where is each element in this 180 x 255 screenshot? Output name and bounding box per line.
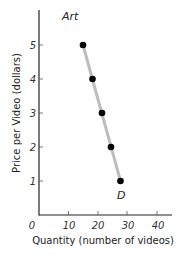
y-axis-title: Price per Video (dollars): [11, 53, 22, 173]
data-point: [117, 178, 124, 185]
x-axis-title: Quantity (number of videos): [32, 235, 174, 246]
svg-text:1: 1: [30, 176, 36, 187]
chart: 1 2 3 4 5 0 10 20 30 40 Quantity (number…: [0, 0, 180, 255]
svg-text:3: 3: [30, 108, 36, 119]
data-point: [108, 144, 115, 151]
demand-label: D: [117, 189, 125, 202]
svg-text:20: 20: [92, 220, 105, 231]
svg-text:40: 40: [152, 220, 165, 231]
svg-text:0: 0: [29, 220, 35, 231]
data-point: [89, 76, 96, 83]
svg-text:30: 30: [122, 220, 135, 231]
chart-title-art: Art: [61, 10, 79, 23]
x-tick-labels: 0 10 20 30 40: [29, 220, 165, 231]
svg-text:2: 2: [30, 142, 36, 153]
svg-text:5: 5: [30, 40, 36, 51]
y-tick-labels: 1 2 3 4 5: [30, 40, 36, 187]
data-points: [80, 42, 124, 185]
data-point: [80, 42, 87, 49]
svg-text:4: 4: [30, 74, 36, 85]
svg-text:10: 10: [63, 220, 76, 231]
data-point: [99, 110, 106, 117]
